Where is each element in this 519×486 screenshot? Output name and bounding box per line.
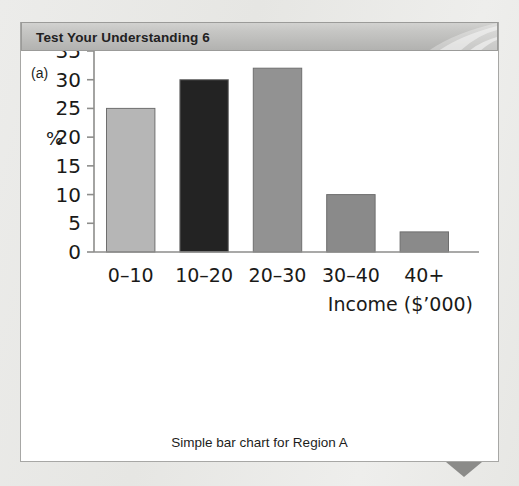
x-axis-title: Income ($’000) [328,293,473,315]
bar-0–10 [107,108,155,252]
y-tick-label: 30 [56,68,81,92]
x-tick-label: 20–30 [249,264,307,286]
y-tick-labels: 05101520253035 [56,51,81,264]
bar-30–40 [327,195,375,252]
y-tick-label: 15 [56,154,81,178]
y-tick-label: 5 [68,211,81,235]
bar-chart: 05101520253035 0–1010–2020–3030–4040+ % … [21,51,500,431]
bars-group [107,68,449,252]
panel-title: Test Your Understanding 6 [36,29,210,44]
bar-10–20 [180,80,228,252]
bar-40+ [400,232,448,252]
y-axis-title: % [46,128,63,149]
x-category-labels: 0–1010–2020–3030–4040+ [108,264,445,286]
x-tick-label: 10–20 [175,264,233,286]
chart-caption: Simple bar chart for Region A [21,435,498,450]
x-tick-label: 30–40 [322,264,380,286]
bar-20–30 [253,68,301,252]
exercise-panel: Test Your Understanding 6 (a) 0510152025… [20,22,499,462]
x-tick-label: 0–10 [108,264,154,286]
panel-header: Test Your Understanding 6 [21,22,498,51]
swoosh-decoration-icon [367,23,497,51]
x-tick-label: 40+ [404,264,444,286]
y-tick-label: 0 [68,240,81,264]
y-tick-label: 35 [56,51,81,63]
chart-body: (a) 05101520253035 0–1010–2020–3030–4040… [21,51,498,460]
y-tick-label: 10 [56,183,81,207]
down-triangle-icon [446,462,482,477]
y-tick-label: 25 [56,96,81,120]
